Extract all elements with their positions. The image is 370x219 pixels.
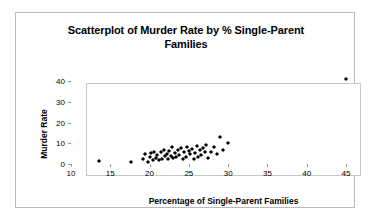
y-tick-label: 0 xyxy=(47,160,65,169)
x-tick-mark xyxy=(110,164,111,167)
y-tick-mark xyxy=(68,123,71,124)
chart-outer-frame: Scatterplot of Murder Rate by % Single-P… xyxy=(15,12,355,208)
x-tick-label: 45 xyxy=(342,169,351,178)
y-tick-label: 10 xyxy=(47,139,65,148)
chart-title-line-2: Families xyxy=(46,37,326,51)
x-tick-label: 30 xyxy=(224,169,233,178)
y-tick-mark xyxy=(68,102,71,103)
x-tick-label: 35 xyxy=(263,169,272,178)
y-tick-label: 40 xyxy=(47,77,65,86)
x-tick-mark xyxy=(267,164,268,167)
y-tick-mark xyxy=(68,143,71,144)
data-point xyxy=(344,77,348,81)
x-tick-mark xyxy=(150,164,151,167)
y-tick-mark xyxy=(68,81,71,82)
y-tick-label: 20 xyxy=(47,118,65,127)
plot-area xyxy=(86,83,361,176)
x-tick-mark xyxy=(346,164,347,167)
x-tick-mark xyxy=(189,164,190,167)
x-tick-label: 25 xyxy=(184,169,193,178)
x-tick-label: 15 xyxy=(106,169,115,178)
x-tick-mark xyxy=(307,164,308,167)
x-tick-label: 20 xyxy=(145,169,154,178)
chart-title: Scatterplot of Murder Rate by % Single-P… xyxy=(46,23,326,51)
x-axis-title: Percentage of Single-Parent Families xyxy=(86,196,361,206)
chart-title-line-1: Scatterplot of Murder Rate by % Single-P… xyxy=(46,23,326,37)
x-tick-mark xyxy=(228,164,229,167)
x-tick-label: 10 xyxy=(67,169,76,178)
y-tick-label: 30 xyxy=(47,98,65,107)
x-tick-mark xyxy=(71,164,72,167)
x-tick-label: 40 xyxy=(302,169,311,178)
y-tick-mark xyxy=(68,164,71,165)
